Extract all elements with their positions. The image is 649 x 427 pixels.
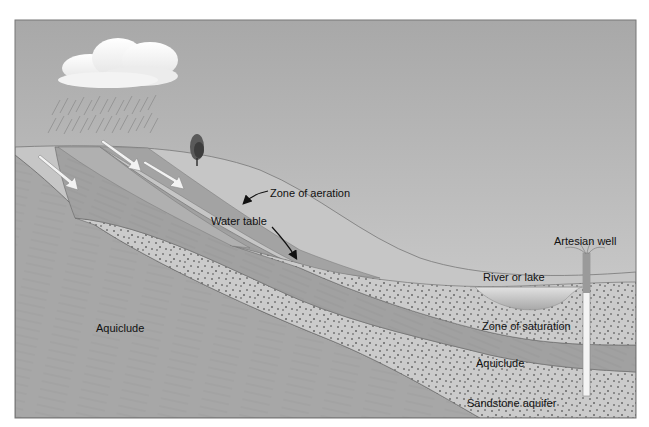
label-zone-of-saturation: Zone of saturation [482,320,571,332]
label-sandstone-aquifer: Sandstone aquifer [467,397,556,409]
label-artesian-well: Artesian well [554,235,616,247]
label-aquiclude-left: Aquiclude [96,322,144,334]
groundwater-diagram [0,0,649,427]
label-river-or-lake: River or lake [483,271,545,283]
label-aquiclude-right: Aquiclude [476,357,524,369]
label-water-table: Water table [211,215,267,227]
label-zone-of-aeration: Zone of aeration [270,187,350,199]
